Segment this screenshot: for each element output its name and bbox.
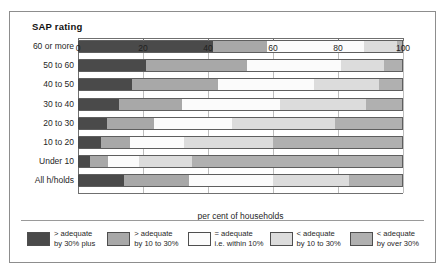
chart-title: SAP rating: [32, 21, 82, 32]
bar-row: 10 to 20: [78, 136, 403, 149]
bar-segment: [218, 78, 314, 91]
category-label: 40 to 50: [0, 78, 74, 91]
bar-segment: [108, 155, 139, 168]
bar-segment: [213, 40, 267, 53]
bar-row: All h/holds: [78, 174, 403, 187]
chart-legend: > adequateby 30% plus> adequateby 10 to …: [21, 220, 424, 252]
bar-segment: [379, 78, 403, 91]
legend-swatch: [107, 232, 130, 246]
bar-segment: [189, 174, 274, 187]
x-tick-label: 60: [268, 43, 277, 53]
bar-segment: [78, 155, 90, 168]
bar-segment: [119, 98, 182, 111]
bar-segment: [78, 78, 132, 91]
bar-segment: [364, 40, 397, 53]
bar-segment: [247, 59, 341, 72]
x-tick: [78, 38, 79, 41]
bar-segment: [232, 117, 334, 130]
legend-item: > adequateby 10 to 30%: [101, 229, 181, 247]
bar-segment: [349, 174, 403, 187]
legend-label: = adequatei.e. within 10%: [215, 229, 264, 247]
bar-segment: [78, 98, 119, 111]
bar-row: 60 or more: [78, 40, 403, 53]
bar-segment: [139, 155, 192, 168]
bar-segment: [78, 59, 146, 72]
bar-segment: [90, 155, 108, 168]
bar-segment: [273, 136, 403, 149]
x-tick: [143, 38, 144, 41]
bar-segment: [124, 174, 189, 187]
bar-segment: [78, 136, 101, 149]
legend-item: > adequateby 30% plus: [21, 229, 101, 247]
x-tick-label: 20: [138, 43, 147, 53]
x-tick: [338, 38, 339, 41]
bar-segment: [182, 98, 280, 111]
x-tick-label: 100: [396, 43, 410, 53]
legend-item: = adequatei.e. within 10%: [182, 229, 264, 247]
category-label: 50 to 60: [0, 59, 74, 72]
legend-item: < adequateby over 30%: [344, 229, 424, 247]
bar-segment: [384, 59, 404, 72]
plot-area: 60 or more50 to 6040 to 5030 to 4020 to …: [78, 38, 403, 193]
legend-swatch: [188, 232, 211, 246]
bar-segment: [101, 136, 130, 149]
bar-row: 20 to 30: [78, 117, 403, 130]
category-label: 30 to 40: [0, 98, 74, 111]
bar-segment: [146, 59, 247, 72]
legend-swatch: [350, 232, 373, 246]
bar-segment: [280, 98, 366, 111]
bar-segment: [273, 174, 349, 187]
category-label: All h/holds: [0, 174, 74, 187]
bar-segment: [341, 59, 383, 72]
bar-row: Under 10: [78, 155, 403, 168]
x-tick-label: 0: [76, 43, 81, 53]
x-tick: [403, 38, 404, 41]
legend-label: < adequateby over 30%: [377, 229, 419, 247]
bar-segment: [132, 78, 218, 91]
category-label: 20 to 30: [0, 117, 74, 130]
bar-segment: [314, 78, 379, 91]
x-tick-label: 40: [203, 43, 212, 53]
legend-swatch: [27, 232, 50, 246]
legend-swatch: [270, 232, 293, 246]
legend-label: > adequateby 10 to 30%: [134, 229, 178, 247]
bar-segment: [184, 136, 273, 149]
gridline: [403, 38, 404, 193]
bar-row: 40 to 50: [78, 78, 403, 91]
bar-segment: [154, 117, 232, 130]
category-label: 60 or more: [0, 40, 74, 53]
category-label: Under 10: [0, 155, 74, 168]
legend-label: < adequateby 10 to 30%: [297, 229, 341, 247]
bar-segment: [78, 174, 124, 187]
bar-segment: [78, 117, 107, 130]
x-tick-label: 80: [333, 43, 342, 53]
x-axis-line: [78, 193, 403, 194]
legend-item: < adequateby 10 to 30%: [264, 229, 344, 247]
chart-figure: SAP rating 60 or more50 to 6040 to 5030 …: [9, 11, 436, 263]
legend-label: > adequateby 30% plus: [54, 229, 95, 247]
bar-segment: [130, 136, 184, 149]
bar-segment: [366, 98, 403, 111]
bar-segment: [267, 40, 365, 53]
bar-segment: [335, 117, 403, 130]
x-tick: [208, 38, 209, 41]
bar-segment: [107, 117, 154, 130]
bar-row: 30 to 40: [78, 98, 403, 111]
category-label: 10 to 20: [0, 136, 74, 149]
x-tick: [273, 38, 274, 41]
bar-segment: [192, 155, 403, 168]
bar-row: 50 to 60: [78, 59, 403, 72]
